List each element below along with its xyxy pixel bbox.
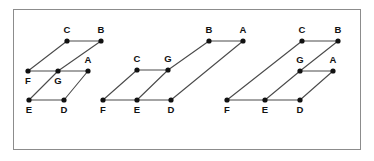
graph-node-D bbox=[168, 97, 173, 102]
left-graph: CBFGAED bbox=[25, 24, 104, 115]
graph-node-E bbox=[134, 97, 139, 102]
graph-node-D bbox=[61, 97, 66, 102]
graph-node-C bbox=[299, 38, 304, 43]
graph-node-A bbox=[85, 68, 90, 73]
graph-node-B bbox=[98, 38, 103, 43]
graph-edge-G-B bbox=[58, 41, 101, 71]
node-label-F: F bbox=[100, 104, 106, 115]
graph-node-G bbox=[55, 68, 60, 73]
node-label-E: E bbox=[262, 104, 268, 115]
node-label-B: B bbox=[98, 24, 105, 35]
node-label-D: D bbox=[168, 104, 175, 115]
node-label-E: E bbox=[134, 104, 140, 115]
node-label-G: G bbox=[54, 75, 61, 86]
graph-edge-E-G bbox=[137, 70, 168, 100]
graph-node-B bbox=[335, 38, 340, 43]
node-label-B: B bbox=[335, 24, 342, 35]
graph-node-B bbox=[206, 38, 211, 43]
graph-node-F bbox=[224, 97, 229, 102]
node-label-D: D bbox=[61, 104, 68, 115]
node-label-D: D bbox=[297, 104, 304, 115]
node-label-F: F bbox=[224, 104, 230, 115]
graph-node-F bbox=[100, 97, 105, 102]
graph-edge-G-B bbox=[168, 41, 209, 70]
node-label-F: F bbox=[25, 75, 31, 86]
graph-node-C bbox=[134, 67, 139, 72]
graph-node-C bbox=[64, 38, 69, 43]
node-label-A: A bbox=[330, 54, 337, 65]
graph-node-F bbox=[25, 68, 30, 73]
node-label-C: C bbox=[299, 24, 306, 35]
node-label-B: B bbox=[206, 24, 213, 35]
node-label-G: G bbox=[164, 53, 171, 64]
graph-node-A bbox=[240, 38, 245, 43]
right-graph: CBGAFED bbox=[224, 24, 341, 115]
graph-edge-F-C bbox=[227, 41, 302, 100]
graph-node-E bbox=[262, 97, 267, 102]
node-label-C: C bbox=[134, 53, 141, 64]
figure-root: CBFGAEDBACGFEDCBGAFED bbox=[0, 0, 374, 161]
graph-edge-F-C bbox=[28, 41, 67, 71]
graph-node-D bbox=[297, 97, 302, 102]
graph-node-G bbox=[165, 67, 170, 72]
graph-edge-F-C bbox=[103, 70, 137, 100]
graph-edge-D-A bbox=[300, 71, 333, 100]
graph-figure-svg: CBFGAEDBACGFEDCBGAFED bbox=[0, 0, 374, 161]
middle-graph: BACGFED bbox=[100, 24, 246, 115]
graph-edge-E-G bbox=[265, 71, 300, 100]
node-label-E: E bbox=[26, 104, 32, 115]
graph-node-E bbox=[26, 97, 31, 102]
node-label-A: A bbox=[85, 54, 92, 65]
graph-node-G bbox=[297, 68, 302, 73]
node-label-G: G bbox=[296, 54, 303, 65]
graph-node-A bbox=[330, 68, 335, 73]
node-label-A: A bbox=[240, 24, 247, 35]
graph-edge-D-A bbox=[171, 41, 243, 100]
node-label-C: C bbox=[64, 24, 71, 35]
graph-edge-D-A bbox=[64, 71, 88, 100]
